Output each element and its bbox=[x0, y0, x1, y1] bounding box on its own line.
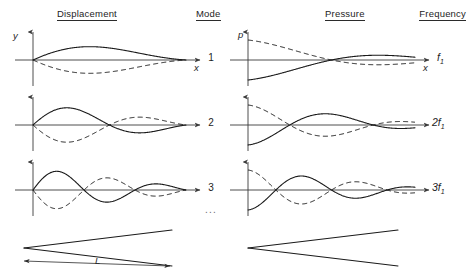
displacement-curve-solid-mode-1 bbox=[33, 47, 186, 60]
pressure-curve-dashed-mode-1 bbox=[248, 40, 415, 65]
cone-right-lower-wall bbox=[248, 248, 398, 266]
pressure-curve-solid-mode-3 bbox=[248, 176, 415, 210]
cone-right-upper-wall bbox=[248, 230, 398, 248]
cone-left-upper-wall bbox=[24, 230, 172, 248]
pressure-curve-solid-mode-2 bbox=[248, 114, 415, 145]
pressure-curve-dashed-mode-2 bbox=[248, 105, 415, 136]
displacement-curve-dashed-mode-1 bbox=[33, 60, 186, 73]
displacement-curve-solid-mode-3 bbox=[33, 171, 186, 202]
waveform-svg bbox=[0, 0, 470, 279]
pressure-curve-dashed-mode-3 bbox=[248, 170, 415, 204]
displacement-curve-dashed-mode-3 bbox=[33, 178, 186, 209]
diagram-canvas: Displacement Mode Pressure Frequency y p… bbox=[0, 0, 470, 279]
pressure-curve-solid-mode-1 bbox=[248, 55, 415, 80]
